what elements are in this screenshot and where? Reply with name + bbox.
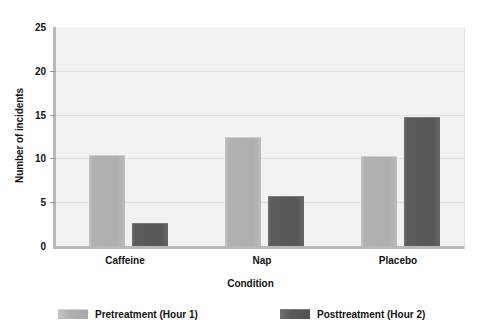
bar-caffeine-pretreatment[interactable] bbox=[89, 155, 125, 246]
x-tick-nap: Nap bbox=[253, 255, 272, 266]
bar-group-container bbox=[56, 27, 464, 246]
x-tick-placebo: Placebo bbox=[379, 255, 417, 266]
legend-swatch-pretreatment bbox=[58, 309, 88, 319]
legend-entry-posttreatment[interactable]: Posttreatment (Hour 2) bbox=[280, 306, 425, 322]
x-tick-caffeine: Caffeine bbox=[105, 255, 144, 266]
bar-chart-figure: Number of incidents 25 20 15 10 5 0 bbox=[0, 0, 501, 334]
bar-caffeine-posttreatment[interactable] bbox=[132, 223, 168, 246]
y-tick-0: 0 bbox=[20, 241, 46, 252]
plot-area bbox=[53, 27, 465, 249]
bar-nap-pretreatment[interactable] bbox=[225, 137, 261, 246]
y-tick-15: 15 bbox=[20, 109, 46, 120]
legend-label-posttreatment: Posttreatment (Hour 2) bbox=[317, 309, 425, 320]
legend-label-pretreatment: Pretreatment (Hour 1) bbox=[95, 309, 198, 320]
y-tick-10: 10 bbox=[20, 153, 46, 164]
y-tick-25: 25 bbox=[20, 22, 46, 33]
bar-nap-posttreatment[interactable] bbox=[268, 196, 304, 246]
bar-placebo-pretreatment[interactable] bbox=[361, 156, 397, 246]
bar-placebo-posttreatment[interactable] bbox=[404, 117, 440, 246]
legend-swatch-posttreatment bbox=[280, 309, 310, 319]
y-tick-20: 20 bbox=[20, 65, 46, 76]
legend-entry-pretreatment[interactable]: Pretreatment (Hour 1) bbox=[58, 306, 198, 322]
chart-legend: Pretreatment (Hour 1) Posttreatment (Hou… bbox=[0, 306, 501, 326]
y-tick-5: 5 bbox=[20, 197, 46, 208]
x-axis-title: Condition bbox=[0, 278, 501, 289]
